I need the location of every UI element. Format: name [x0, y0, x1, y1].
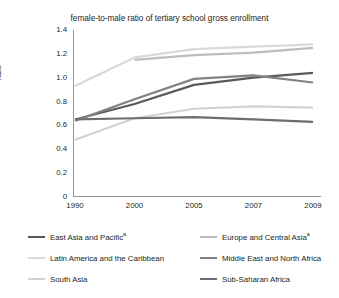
y-tick-label: 0.2 [41, 169, 67, 177]
y-tick-label: 0.4 [41, 145, 67, 153]
legend-label: Middle East and North Africa [222, 254, 321, 263]
x-tick-label: 1990 [52, 201, 98, 210]
legend-swatch-icon [28, 257, 45, 260]
y-axis-tick-labels: 00.20.40.60.81.01.21.4 [37, 30, 67, 197]
legend-label: Europe and Central Asiaa [222, 233, 310, 242]
chart-figure: female-to-male ratio of tertiary school … [0, 0, 339, 298]
x-tick-label: 2009 [290, 201, 336, 210]
legend-item[interactable]: Latin America and the Caribbean [28, 252, 164, 264]
legend-item[interactable]: Middle East and North Africa [200, 252, 321, 264]
legend-item[interactable]: South Asia [28, 273, 87, 285]
legend-swatch-icon [200, 236, 217, 239]
legend-item[interactable]: East Asia and Pacifica [28, 231, 126, 243]
legend-swatch-icon [200, 278, 217, 281]
chart-legend: East Asia and PacificaLatin America and … [28, 231, 328, 289]
legend-label-superscript: a [123, 231, 126, 237]
plot-area [73, 30, 321, 197]
legend-item[interactable]: Sub-Saharan Africa [200, 273, 290, 285]
legend-item[interactable]: Europe and Central Asiaa [200, 231, 310, 243]
y-tick-label: 1.0 [41, 74, 67, 82]
legend-swatch-icon [28, 278, 45, 281]
legend-label: East Asia and Pacifica [50, 233, 126, 242]
y-tick-label: 0.6 [41, 121, 67, 129]
x-tick-label: 2005 [171, 201, 217, 210]
x-tick-label: 2000 [112, 201, 158, 210]
legend-swatch-icon [200, 257, 217, 260]
series-line [75, 75, 313, 120]
series-line [75, 106, 313, 139]
x-tick-label: 2007 [231, 201, 277, 210]
series-lines [73, 30, 321, 197]
legend-label-superscript: a [307, 231, 310, 237]
y-axis-title: ratio [0, 53, 3, 93]
y-tick-label: 0 [41, 193, 67, 201]
legend-label: Latin America and the Caribbean [50, 254, 164, 263]
y-tick-label: 1.2 [41, 50, 67, 58]
legend-label: South Asia [50, 275, 87, 284]
x-axis-tick-labels: 19902000200520072009 [73, 201, 321, 215]
legend-label: Sub-Saharan Africa [222, 275, 290, 284]
chart-title: female-to-male ratio of tertiary school … [0, 13, 339, 23]
y-tick-label: 1.4 [41, 26, 67, 34]
y-tick-label: 0.8 [41, 98, 67, 106]
legend-swatch-icon [28, 236, 45, 239]
series-line [75, 117, 313, 122]
